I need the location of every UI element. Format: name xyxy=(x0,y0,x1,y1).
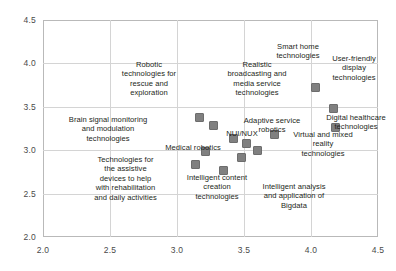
x-tick-label: 2.0 xyxy=(30,245,56,255)
point-label-realistic-broadcast: Realistic broadcasting and media service… xyxy=(215,60,299,98)
point-label-user-friendly: User-friendly display technologies xyxy=(322,54,386,82)
point-label-brain-signal: Brain signal monitoring and modulation t… xyxy=(57,115,159,143)
point-label-bigdata-analysis: Intelligent analysis and application of … xyxy=(252,182,336,210)
data-point-marker xyxy=(329,104,338,113)
y-tick-label: 2.0 xyxy=(10,232,36,242)
point-label-virtual-mixed: Virtual and mixed reality technologies xyxy=(284,130,362,158)
gridline-horizontal xyxy=(43,107,378,108)
data-point-marker xyxy=(209,121,218,130)
data-point-marker xyxy=(311,83,320,92)
data-point-marker xyxy=(195,113,204,122)
x-tick-label: 4.5 xyxy=(365,245,391,255)
data-point-marker xyxy=(242,139,251,148)
data-point-marker xyxy=(191,160,200,169)
y-tick-label: 3.0 xyxy=(10,145,36,155)
data-point-marker xyxy=(237,153,246,162)
x-tick-label: 4.0 xyxy=(298,245,324,255)
y-tick-label: 3.5 xyxy=(10,102,36,112)
point-label-medical-robotics: Medical robotics xyxy=(160,143,226,152)
point-label-intelligent-content: Intelligent content creation technologie… xyxy=(177,173,257,201)
x-tick-label: 3.5 xyxy=(231,245,257,255)
point-label-robotic-rescue: Robotic technologies for rescue and expl… xyxy=(108,60,190,98)
scatter-chart: 2.02.53.03.54.04.5 2.02.53.03.54.04.5 Ro… xyxy=(0,0,396,271)
y-tick-label: 4.0 xyxy=(10,58,36,68)
x-tick-label: 3.0 xyxy=(164,245,190,255)
y-tick-label: 2.5 xyxy=(10,189,36,199)
gridline-vertical xyxy=(177,20,178,237)
point-label-assistive-devices: Technologies for the assistive devices t… xyxy=(79,155,172,202)
x-tick-label: 2.5 xyxy=(97,245,123,255)
point-label-smart-home: Smart home technologies xyxy=(267,42,329,61)
point-label-digital-healthcare: Digital healthcare technologies xyxy=(318,113,394,132)
data-point-marker xyxy=(253,146,262,155)
y-tick-label: 4.5 xyxy=(10,15,36,25)
